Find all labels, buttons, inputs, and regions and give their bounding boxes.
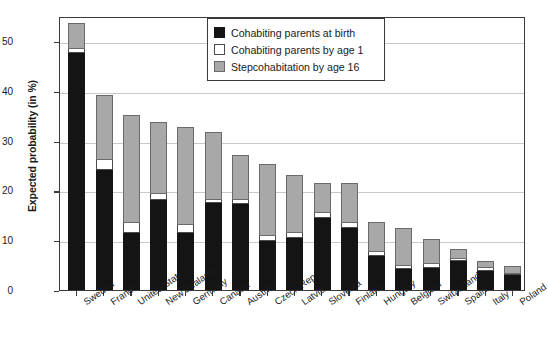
legend-item: Cohabiting parents at birth bbox=[214, 24, 378, 41]
bar-segment bbox=[96, 159, 113, 170]
y-tick-mark bbox=[54, 241, 59, 242]
bar-segment bbox=[150, 193, 167, 200]
bar-segment bbox=[368, 222, 385, 252]
legend-item-label: Stepcohabitation by age 16 bbox=[231, 61, 359, 73]
bar-segment bbox=[504, 274, 521, 290]
bar-segment bbox=[123, 115, 140, 223]
bar bbox=[150, 123, 167, 290]
y-axis-title: Expected probability (in %) bbox=[26, 16, 38, 276]
bar-segment bbox=[205, 132, 222, 200]
bar bbox=[259, 165, 276, 290]
white-swatch-icon bbox=[214, 44, 225, 55]
bar bbox=[286, 176, 303, 290]
legend-item: Cohabiting parents by age 1 bbox=[214, 41, 378, 58]
bar-segment bbox=[259, 164, 276, 236]
x-tick-label: Italy bbox=[491, 289, 511, 307]
bar-segment bbox=[150, 122, 167, 194]
bar-segment bbox=[314, 183, 331, 213]
bar-segment bbox=[96, 95, 113, 161]
y-tick-label: 0 bbox=[0, 286, 13, 296]
bar bbox=[232, 156, 249, 291]
bar-segment bbox=[177, 224, 194, 232]
x-tick-mark bbox=[76, 291, 77, 296]
bar-segment bbox=[68, 52, 85, 290]
bar-segment bbox=[395, 228, 412, 265]
y-tick-label: 10 bbox=[0, 236, 13, 246]
bar-segment bbox=[232, 155, 249, 201]
bar bbox=[504, 267, 521, 290]
bar-segment bbox=[177, 127, 194, 225]
bar-segment bbox=[123, 222, 140, 233]
y-tick-mark bbox=[54, 42, 59, 43]
legend-item: Stepcohabitation by age 16 bbox=[214, 58, 378, 75]
legend-item-label: Cohabiting parents at birth bbox=[231, 27, 355, 39]
y-tick-label: 50 bbox=[0, 37, 13, 47]
x-tick-mark bbox=[512, 291, 513, 296]
y-tick-label: 20 bbox=[0, 186, 13, 196]
black-swatch-icon bbox=[214, 27, 225, 38]
bar-segment bbox=[423, 239, 440, 263]
y-tick-label: 30 bbox=[0, 137, 13, 147]
bar-segment bbox=[286, 175, 303, 232]
bar-segment bbox=[96, 169, 113, 290]
gray-swatch-icon bbox=[214, 61, 225, 72]
bar bbox=[368, 223, 385, 290]
y-tick-label: 40 bbox=[0, 87, 13, 97]
bar-segment bbox=[450, 249, 467, 259]
legend: Cohabiting parents at birth Cohabiting p… bbox=[207, 18, 385, 81]
y-tick-mark bbox=[54, 191, 59, 192]
y-tick-mark bbox=[54, 291, 59, 292]
y-tick-mark bbox=[54, 142, 59, 143]
y-tick-mark bbox=[54, 92, 59, 93]
bar bbox=[341, 184, 358, 290]
gridline bbox=[60, 93, 524, 94]
bar-segment bbox=[232, 203, 249, 290]
bar-segment bbox=[504, 266, 521, 274]
bar-segment bbox=[68, 23, 85, 50]
bar-segment bbox=[341, 183, 358, 222]
bar bbox=[123, 116, 140, 290]
bar bbox=[96, 96, 113, 290]
legend-item-label: Cohabiting parents by age 1 bbox=[231, 44, 364, 56]
bar bbox=[68, 23, 85, 290]
bar-segment bbox=[477, 261, 494, 268]
